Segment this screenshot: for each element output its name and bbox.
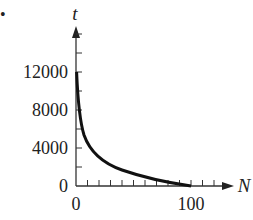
x-tick-100: 100 xyxy=(178,194,205,214)
bullet-mark: • xyxy=(0,6,6,23)
chart: • 0 4000 8000 12000 0 100 t xyxy=(0,0,253,220)
x-axis-arrow-icon xyxy=(222,182,234,190)
y-tick-4000: 4000 xyxy=(32,138,68,158)
y-tick-0: 0 xyxy=(59,176,68,196)
y-axis-label: t xyxy=(72,3,78,24)
y-tick-12000: 12000 xyxy=(23,62,68,82)
y-axis-arrow-icon xyxy=(72,26,80,38)
x-axis-label: N xyxy=(237,175,252,196)
x-ticks xyxy=(88,180,215,186)
x-tick-0: 0 xyxy=(72,194,81,214)
curve-t-vs-N xyxy=(77,72,191,186)
y-tick-8000: 8000 xyxy=(32,100,68,120)
